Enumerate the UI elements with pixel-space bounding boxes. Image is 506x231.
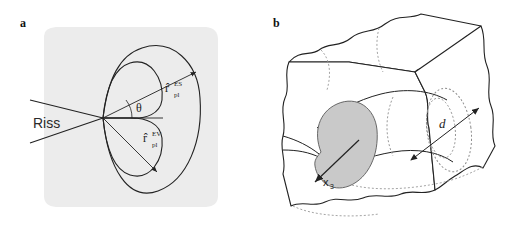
outer-curve-label-subscript: pl xyxy=(174,91,180,99)
x3-label-subscript: 3 xyxy=(330,183,334,190)
panel-b-drawing: x 3 d xyxy=(253,0,506,231)
panel-a: a xyxy=(0,0,253,231)
panel-a-drawing: Riss θ r̂ ES pl r̂ EV pl xyxy=(0,0,253,231)
outer-curve-label-superscript: ES xyxy=(174,80,182,88)
x3-label-base: x xyxy=(323,176,329,188)
inner-curve-label-subscript: pl xyxy=(152,141,158,149)
theta-label: θ xyxy=(136,101,142,115)
crack-label: Riss xyxy=(33,115,60,131)
inner-curve-label-superscript: EV xyxy=(152,130,161,138)
outer-curve-label-base: r̂ xyxy=(165,81,170,95)
panel-b: b xyxy=(253,0,506,231)
inner-curve-label-base: r̂ xyxy=(143,131,148,145)
figure-root: a xyxy=(0,0,506,231)
d-dimension-label: d xyxy=(439,116,446,131)
hidden-edge-front-bottom xyxy=(293,206,379,216)
